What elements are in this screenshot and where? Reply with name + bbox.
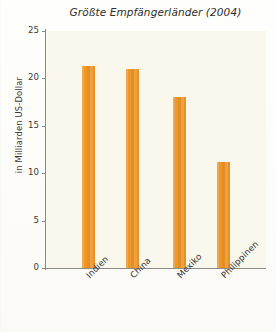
bar-mexiko bbox=[173, 97, 186, 268]
y-axis-tick: 15 bbox=[0, 126, 46, 127]
bar-chart-figure: Größte Empfängerländer (2004) in Milliar… bbox=[0, 0, 276, 332]
bar-philippinen bbox=[217, 162, 230, 268]
y-axis-tick-label: 15 bbox=[28, 120, 39, 130]
y-axis-tick: 10 bbox=[0, 173, 46, 174]
y-axis-tick: 0 bbox=[0, 268, 46, 269]
y-axis-tick-mark bbox=[42, 31, 46, 32]
bar-indien bbox=[82, 66, 95, 268]
y-axis-tick-mark bbox=[42, 268, 46, 269]
plot-area bbox=[46, 31, 266, 268]
y-axis-tick: 25 bbox=[0, 31, 46, 32]
y-axis-line bbox=[45, 29, 46, 270]
y-axis-tick-label: 5 bbox=[34, 215, 39, 225]
y-axis-tick-mark bbox=[42, 173, 46, 174]
bar-china bbox=[126, 69, 139, 268]
chart-title: Größte Empfängerländer (2004) bbox=[45, 6, 266, 18]
y-axis-tick-label: 10 bbox=[28, 167, 39, 177]
y-axis-tick: 20 bbox=[0, 78, 46, 79]
y-axis-tick-label: 0 bbox=[34, 262, 39, 272]
y-axis-tick-label: 25 bbox=[28, 25, 39, 35]
y-axis-tick: 5 bbox=[0, 221, 46, 222]
y-axis-tick-mark bbox=[42, 78, 46, 79]
y-axis-tick-label: 20 bbox=[28, 72, 39, 82]
y-axis-tick-mark bbox=[42, 221, 46, 222]
y-axis-tick-mark bbox=[42, 126, 46, 127]
